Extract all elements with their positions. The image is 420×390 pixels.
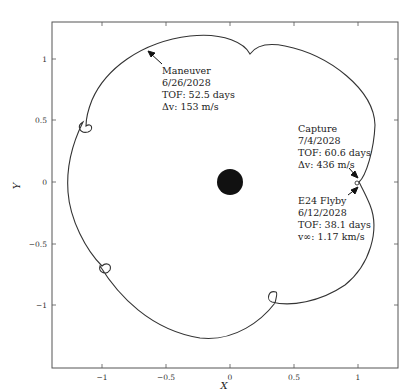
annotation-line: 6/26/2028 xyxy=(162,77,211,88)
y-tick-label: −1 xyxy=(36,301,47,310)
annotation-line: 6/12/2028 xyxy=(298,207,347,218)
annotation-line: E24 Flyby xyxy=(298,195,347,206)
x-tick-label: −0.5 xyxy=(157,373,175,382)
annotation-line: Capture xyxy=(298,123,337,134)
x-tick-label: 0.5 xyxy=(288,373,300,382)
central-body xyxy=(217,169,243,195)
y-tick-label: −0.5 xyxy=(29,240,47,249)
annotation-capture: Capture 7/4/2028 TOF: 60.6 days Δv: 436 … xyxy=(298,123,371,170)
x-tick-label: 0 xyxy=(228,373,233,382)
annotation-maneuver: Maneuver 6/26/2028 TOF: 52.5 days Δv: 15… xyxy=(162,65,235,112)
y-axis-label: Y xyxy=(11,181,22,189)
x-tick-label: 1 xyxy=(356,373,361,382)
y-tick-label: 1 xyxy=(42,55,47,64)
x-axis-label: X xyxy=(219,380,228,390)
annotation-line: TOF: 38.1 days xyxy=(298,219,371,230)
annotation-flyby: E24 Flyby 6/12/2028 TOF: 38.1 days v∞: 1… xyxy=(297,195,371,242)
annotation-line: Maneuver xyxy=(162,65,211,76)
annotation-line: TOF: 52.5 days xyxy=(162,89,235,100)
x-tick-label: −1 xyxy=(96,373,107,382)
y-tick-label: 0.5 xyxy=(35,116,47,125)
capture-loop xyxy=(355,181,359,185)
annotation-line: Δv: 153 m/s xyxy=(162,101,219,112)
annotation-line: TOF: 60.6 days xyxy=(298,147,371,158)
annotation-line: 7/4/2028 xyxy=(298,135,341,146)
annotation-line: Δv: 436 m/s xyxy=(298,159,355,170)
annotation-line: v∞: 1.17 km/s xyxy=(297,231,365,242)
trajectory-chart: −1 −0.5 0 0.5 1 1 0.5 0 −0.5 −1 X Y Mane… xyxy=(0,0,420,390)
y-tick-label: 0 xyxy=(42,178,47,187)
